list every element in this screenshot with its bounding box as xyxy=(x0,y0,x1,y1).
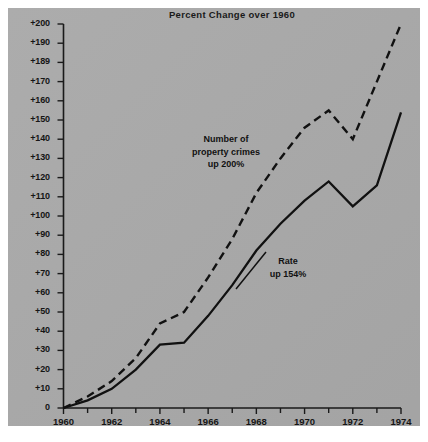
y-tick-label: +100 xyxy=(2,210,50,220)
axis-lines xyxy=(64,24,402,408)
annotation-rate-line1: Rate xyxy=(252,255,324,268)
y-tick-label: +40 xyxy=(2,325,50,335)
y-tick-label: +170 xyxy=(2,76,50,86)
y-tick-label: +20 xyxy=(2,364,50,374)
y-tick-label: +80 xyxy=(2,248,50,258)
y-tick-label: +30 xyxy=(2,344,50,354)
x-tick-label: 1962 xyxy=(92,416,132,427)
y-tick-label: +200 xyxy=(2,18,50,28)
y-tick-label: +160 xyxy=(2,95,50,105)
x-tick-label: 1964 xyxy=(140,416,180,427)
x-tick-label: 1968 xyxy=(236,416,276,427)
y-tick-label: +70 xyxy=(2,268,50,278)
annotation-property-crimes-line1: Number of xyxy=(170,133,282,146)
y-tick-label: +90 xyxy=(2,229,50,239)
y-tick-label: +150 xyxy=(2,114,50,124)
x-tick-label: 1970 xyxy=(285,416,325,427)
plot-area xyxy=(0,0,428,442)
y-tick-label: +110 xyxy=(2,191,50,201)
x-tick-label: 1960 xyxy=(44,416,84,427)
y-tick-label: +140 xyxy=(2,133,50,143)
annotation-rate: Rate up 154% xyxy=(252,255,324,280)
annotation-rate-line2: up 154% xyxy=(252,268,324,281)
x-tick-label: 1966 xyxy=(188,416,228,427)
series-line-property-crimes xyxy=(64,24,402,408)
y-tick-label: +130 xyxy=(2,152,50,162)
y-tick-label: +60 xyxy=(2,287,50,297)
y-tick-label: +50 xyxy=(2,306,50,316)
x-tick-label: 1972 xyxy=(333,416,373,427)
y-tick-label: 0 xyxy=(2,402,50,412)
annotation-property-crimes-line3: up 200% xyxy=(170,158,282,171)
data-series xyxy=(64,24,402,408)
y-tick-label: +10 xyxy=(2,383,50,393)
x-tick-label: 1974 xyxy=(381,416,421,427)
y-tick-label: +120 xyxy=(2,172,50,182)
annotation-property-crimes-line2: property crimes xyxy=(170,146,282,159)
annotation-property-crimes: Number of property crimes up 200% xyxy=(170,133,282,171)
y-tick-label: +190 xyxy=(2,37,50,47)
y-tick-label: +189 xyxy=(2,56,50,66)
x-tick-marks xyxy=(64,408,402,414)
y-tick-marks xyxy=(58,24,64,408)
figure: Percent Change over 1960 +200+190+189+17… xyxy=(0,0,428,442)
